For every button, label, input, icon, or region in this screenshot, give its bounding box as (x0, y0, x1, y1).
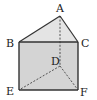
front-face-BCFE (19, 42, 78, 90)
vertex-label-A: A (56, 3, 64, 14)
vertex-label-B: B (6, 38, 14, 49)
vertex-label-C: C (81, 38, 89, 49)
prism-drawing (0, 0, 97, 100)
vertex-label-D: D (51, 56, 60, 67)
prism-diagram: A B C D E F (0, 0, 97, 100)
vertex-label-E: E (6, 86, 14, 97)
vertex-label-F: F (80, 87, 88, 98)
